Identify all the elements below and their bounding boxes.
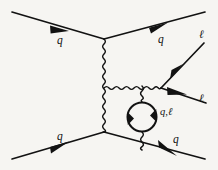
label-incoming-quark-bottom: q: [57, 130, 63, 143]
feynman-diagram-canvas: q q q q ℓ ℓ q,ℓ: [0, 0, 218, 170]
arrow-head-loop-right: [150, 109, 157, 122]
label-outgoing-quark-bottom: q: [173, 133, 179, 146]
label-outgoing-quark-top: q: [158, 33, 164, 46]
label-lepton-lower: ℓ: [199, 92, 204, 104]
label-loop-particles: q,ℓ: [160, 106, 173, 117]
lepton-upper-line: [161, 43, 204, 88]
boson-from-loop-bottom: [141, 132, 144, 150]
arrow-head-incoming-quark-bottom: [50, 142, 69, 154]
fermion-loop: [128, 103, 157, 132]
label-lepton-upper: ℓ: [199, 28, 204, 40]
feynman-diagram-figure: q q q q ℓ ℓ q,ℓ: [0, 0, 218, 170]
outgoing-quark-top-line: [104, 12, 205, 39]
outgoing-quark-bottom-line: [104, 132, 205, 159]
boson-branch-to-lepton-vertex: [104, 87, 161, 90]
boson-to-loop-top: [141, 86, 144, 102]
label-incoming-quark-top: q: [57, 34, 63, 47]
main-boson-propagator: [103, 39, 106, 132]
arrow-head-loop-left: [128, 112, 135, 125]
arrow-head-lepton-lower: [167, 87, 187, 95]
